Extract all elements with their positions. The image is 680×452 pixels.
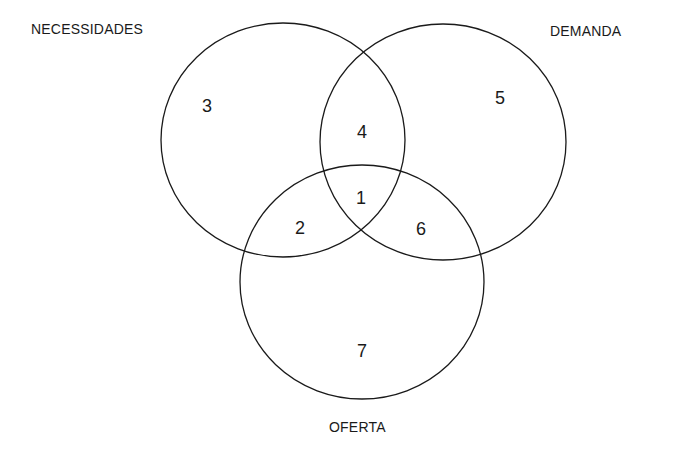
- region-1: 1: [356, 188, 366, 209]
- necessidades-circle: [161, 23, 405, 257]
- region-6: 6: [416, 219, 426, 240]
- venn-diagram: [0, 0, 680, 452]
- necessidades-label: NECESSIDADES: [31, 21, 143, 37]
- region-4: 4: [357, 122, 367, 143]
- region-2: 2: [295, 218, 305, 239]
- region-3: 3: [202, 96, 212, 117]
- region-5: 5: [495, 88, 505, 109]
- oferta-label: OFERTA: [329, 419, 386, 435]
- region-7: 7: [357, 341, 367, 362]
- demanda-label: DEMANDA: [550, 23, 621, 39]
